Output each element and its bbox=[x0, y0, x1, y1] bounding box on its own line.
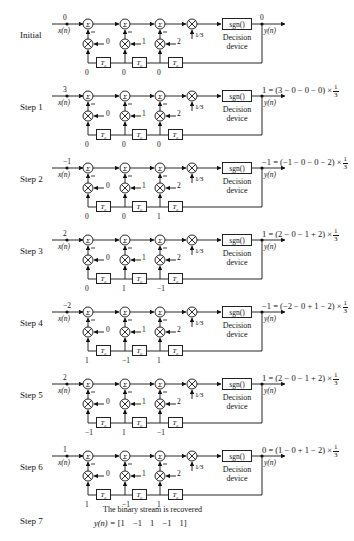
output-label: y(n) bbox=[264, 387, 276, 395]
coefficient-1: 1 bbox=[142, 326, 146, 334]
coefficient-2: 2 bbox=[177, 38, 181, 46]
tap-value-1: −1 bbox=[85, 429, 93, 437]
svg-text:Σ: Σ bbox=[85, 93, 91, 101]
svg-text:Σ: Σ bbox=[122, 453, 128, 461]
decision-device-caption: Decision device bbox=[217, 33, 257, 51]
input-label: x(n) bbox=[58, 243, 70, 251]
delay-element-1: Tc bbox=[96, 417, 111, 428]
svg-text:Σ: Σ bbox=[157, 237, 163, 245]
delay-element-2: Tc bbox=[132, 489, 147, 500]
delay-element-2: Tc bbox=[132, 273, 147, 284]
coefficient-0: 0 bbox=[106, 110, 110, 118]
coefficient-0: 0 bbox=[106, 398, 110, 406]
svg-text:Σ: Σ bbox=[85, 21, 91, 29]
coefficient-1: 1 bbox=[142, 470, 146, 478]
gain-factor: 1⁄3 bbox=[195, 248, 203, 255]
svg-text:Σ: Σ bbox=[122, 21, 128, 29]
equation-text: −1 = (−2 − 0 + 1 − 2) × bbox=[262, 301, 342, 311]
delay-element-1: Tc bbox=[96, 57, 111, 68]
block-diagram-lines: Σ Σ Σ bbox=[0, 14, 354, 86]
output-label: y(n) bbox=[264, 99, 276, 107]
output-label: y(n) bbox=[264, 27, 276, 35]
tap-value-2: 0 bbox=[122, 213, 126, 221]
output-equation: −1 = (−1 − 0 − 0 − 2) ×13 bbox=[262, 156, 348, 171]
coefficient-2: 2 bbox=[177, 110, 181, 118]
output-label: y(n) bbox=[264, 243, 276, 251]
svg-text:Σ: Σ bbox=[157, 165, 163, 173]
decision-device-box: sgn() bbox=[222, 306, 252, 318]
tap-value-2: −1 bbox=[122, 357, 130, 365]
equation-text: 0 = (1 − 0 + 1 − 2) × bbox=[262, 445, 332, 455]
coefficient-2: 2 bbox=[177, 398, 181, 406]
svg-text:Σ: Σ bbox=[122, 93, 128, 101]
svg-text:Σ: Σ bbox=[157, 309, 163, 317]
delay-element-3: Tc bbox=[168, 417, 183, 428]
svg-text:Σ: Σ bbox=[157, 93, 163, 101]
equation-text: 1 = (2 − 0 − 1 + 2) × bbox=[262, 373, 332, 383]
svg-text:Σ: Σ bbox=[122, 309, 128, 317]
step7-caption: The binary stream is recovered bbox=[103, 505, 202, 514]
gain-factor: 1⁄3 bbox=[195, 32, 203, 39]
input-label: x(n) bbox=[58, 27, 70, 35]
delay-element-1: Tc bbox=[96, 345, 111, 356]
output-equation: −1 = (−2 − 0 + 1 − 2) ×13 bbox=[262, 300, 348, 315]
stage-3: Step 3 bbox=[0, 230, 354, 302]
delay-element-1: Tc bbox=[96, 201, 111, 212]
decision-device-caption: Decision device bbox=[217, 105, 257, 123]
svg-text:Σ: Σ bbox=[157, 453, 163, 461]
input-label: x(n) bbox=[58, 171, 70, 179]
input-label: x(n) bbox=[58, 315, 70, 323]
delay-element-1: Tc bbox=[96, 273, 111, 284]
output-equation: 1 = (2 − 0 − 1 + 2) ×13 bbox=[262, 372, 339, 387]
delay-element-3: Tc bbox=[168, 201, 183, 212]
coefficient-0: 0 bbox=[106, 38, 110, 46]
tap-value-1: 1 bbox=[85, 501, 89, 509]
input-value: −1 bbox=[63, 158, 71, 166]
input-value: 2 bbox=[63, 230, 67, 238]
fraction: 13 bbox=[343, 156, 349, 171]
stage-4: Step 4 bbox=[0, 302, 354, 374]
tap-value-1: 0 bbox=[85, 285, 89, 293]
coefficient-0: 0 bbox=[106, 470, 110, 478]
fraction: 13 bbox=[333, 444, 339, 459]
tap-value-3: 1 bbox=[157, 213, 161, 221]
coefficient-1: 1 bbox=[142, 182, 146, 190]
delay-element-2: Tc bbox=[132, 417, 147, 428]
decision-device-box: sgn() bbox=[222, 450, 252, 462]
tap-value-1: 1 bbox=[85, 357, 89, 365]
output-label: y(n) bbox=[264, 315, 276, 323]
decision-device-caption: Decision device bbox=[217, 321, 257, 339]
delay-element-2: Tc bbox=[132, 345, 147, 356]
coefficient-2: 2 bbox=[177, 470, 181, 478]
coefficient-2: 2 bbox=[177, 254, 181, 262]
svg-text:Σ: Σ bbox=[122, 381, 128, 389]
step7-label: Step 7 bbox=[20, 516, 43, 526]
coefficient-1: 1 bbox=[142, 38, 146, 46]
delay-element-3: Tc bbox=[168, 273, 183, 284]
coefficient-1: 1 bbox=[142, 110, 146, 118]
decision-device-box: sgn() bbox=[222, 378, 252, 390]
output-equation: 1 = (2 − 0 − 1 + 2) ×13 bbox=[262, 228, 339, 243]
tap-value-1: 0 bbox=[85, 69, 89, 77]
fraction: 13 bbox=[333, 84, 339, 99]
coefficient-1: 1 bbox=[142, 254, 146, 262]
tap-value-3: 1 bbox=[157, 357, 161, 365]
fraction: 13 bbox=[333, 372, 339, 387]
input-label: x(n) bbox=[58, 99, 70, 107]
output-equation: 0 = (1 − 0 + 1 − 2) ×13 bbox=[262, 444, 339, 459]
output-equation: 1 = (3 − 0 − 0 − 0) ×13 bbox=[262, 84, 339, 99]
decision-device-caption: Decision device bbox=[217, 393, 257, 411]
svg-text:Σ: Σ bbox=[85, 309, 91, 317]
decision-device-box: sgn() bbox=[222, 90, 252, 102]
svg-text:Σ: Σ bbox=[157, 21, 163, 29]
fraction: 13 bbox=[333, 228, 339, 243]
delay-element-2: Tc bbox=[132, 201, 147, 212]
input-value: 0 bbox=[63, 14, 67, 22]
equation-text: 1 = (2 − 0 − 1 + 2) × bbox=[262, 229, 332, 239]
tap-value-1: 0 bbox=[85, 141, 89, 149]
result-lhs: y(n) = bbox=[94, 518, 118, 528]
svg-text:Σ: Σ bbox=[157, 381, 163, 389]
coefficient-2: 2 bbox=[177, 326, 181, 334]
decision-device-caption: Decision device bbox=[217, 465, 257, 483]
svg-text:Σ: Σ bbox=[122, 237, 128, 245]
